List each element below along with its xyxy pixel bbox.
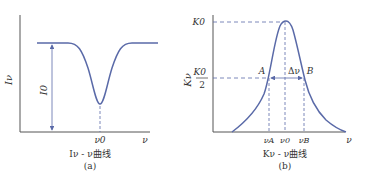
a-caption: Iν - ν曲线	[69, 148, 110, 159]
a-y-axis-label: Iν	[3, 75, 14, 86]
b-y-axis-label: Kν	[182, 73, 193, 88]
a-center-tick-label: ν0	[94, 135, 105, 145]
b-width-label: Δν	[288, 66, 300, 76]
a-x-axis-label: ν	[142, 135, 148, 145]
b-absorption-curve	[232, 21, 346, 132]
b-sub-label: (b)	[279, 161, 292, 171]
panel-b: Kν K0 K0 2 A B Δν νA ν0 νB ν Kν - ν曲线 (b…	[182, 15, 352, 171]
a-depth-label: I0	[38, 84, 49, 96]
b-peak-label: K0	[192, 17, 206, 27]
b-tick-b-label: νB	[299, 136, 310, 145]
b-half-label-num: K0	[193, 67, 207, 77]
a-intensity-curve	[37, 43, 158, 104]
b-half-label-den: 2	[199, 80, 205, 90]
b-point-b-label: B	[306, 66, 314, 76]
panel-a: Iν I0 ν0 ν Iν - ν曲线 (a)	[3, 15, 158, 171]
b-caption: Kν - ν曲线	[263, 148, 307, 159]
b-x-axis-label: ν	[346, 135, 352, 145]
b-tick-a-label: νA	[264, 136, 275, 145]
b-point-a-label: A	[258, 66, 266, 76]
b-tick-0-label: ν0	[280, 136, 290, 145]
absorption-line-diagram: Iν I0 ν0 ν Iν - ν曲线 (a) Kν K0 K0 2 A B Δ…	[0, 0, 366, 181]
a-sub-label: (a)	[84, 161, 96, 171]
